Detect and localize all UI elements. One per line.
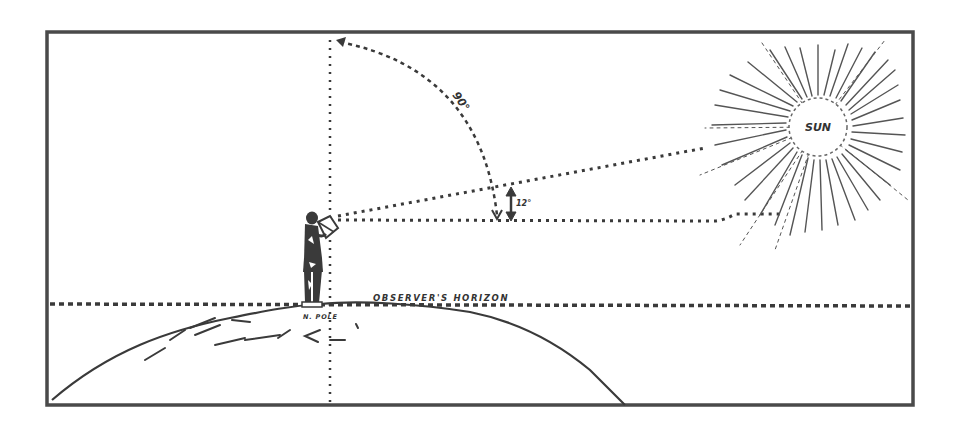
- quadrant-arc: [340, 42, 497, 215]
- sun-label: SUN: [805, 121, 831, 134]
- altitude-angle-label: 12°: [516, 199, 531, 208]
- arc-arrowhead-top: [336, 37, 346, 47]
- sun-altitude-diagram: SUN 90° 12° OBSERVER'S HORIZON N. POLE: [0, 0, 965, 433]
- pole-label: N. POLE: [303, 313, 338, 321]
- terrain-marks: [145, 318, 358, 360]
- arc-angle-label: 90°: [450, 89, 473, 114]
- horizon-line: [50, 304, 912, 306]
- earth-surface: [52, 302, 625, 405]
- level-line: [338, 214, 780, 221]
- altitude-arrow: [506, 187, 516, 221]
- observer-figure: [302, 212, 338, 308]
- diagram-frame: [47, 32, 913, 405]
- horizon-label: OBSERVER'S HORIZON: [373, 293, 509, 303]
